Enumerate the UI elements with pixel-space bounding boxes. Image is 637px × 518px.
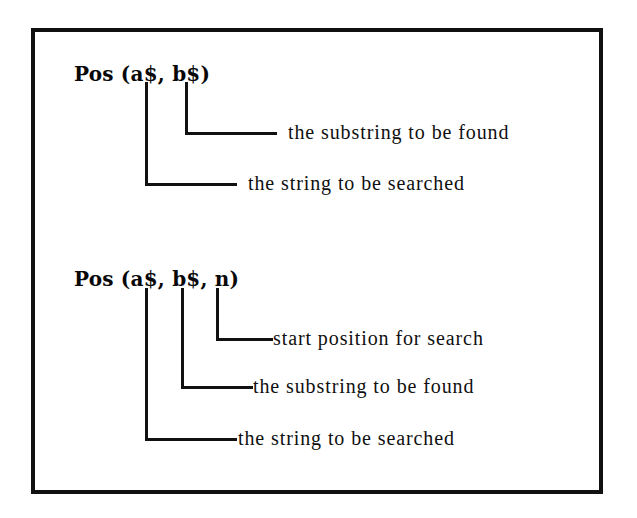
leader-line-string-searched-2 [145,288,237,441]
annotation-label-start-position-2: start position for search [273,328,484,348]
figure-border-frame: Pos (a$, b$) the substring to be found t… [31,28,603,494]
annotation-label-string-searched-2: the string to be searched [238,428,455,448]
annotation-label-substring-found-1: the substring to be found [288,122,509,142]
syntax-heading-pos-two-arg: Pos (a$, b$) [74,64,210,84]
annotation-label-substring-found-2: the substring to be found [253,376,474,396]
syntax-heading-pos-three-arg: Pos (a$, b$, n) [74,269,239,289]
annotation-label-string-searched-1: the string to be searched [248,173,465,193]
leader-line-string-searched-1 [145,82,237,186]
